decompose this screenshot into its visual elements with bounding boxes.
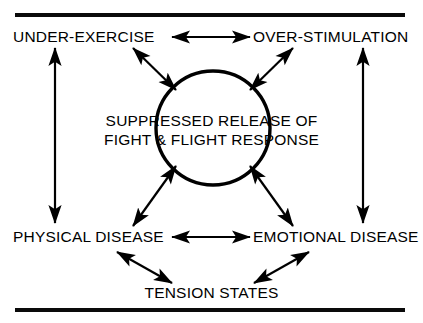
connector-physical-to-tension <box>117 252 172 283</box>
node-center-line-2: FIGHT & FLIGHT RESPONSE <box>0 131 423 148</box>
connector-upper-left-diagonal <box>133 48 176 90</box>
node-over-stimulation: OVER-STIMULATION <box>253 29 408 46</box>
node-tension-states: TENSION STATES <box>0 284 423 301</box>
node-under-exercise: UNDER-EXERCISE <box>13 29 154 46</box>
figure-diagram: UNDER-EXERCISE OVER-STIMULATION SUPPRESS… <box>0 0 423 323</box>
node-physical-disease: PHYSICAL DISEASE <box>13 229 164 246</box>
connector-emotional-to-tension <box>254 252 309 283</box>
connector-lower-left-diagonal <box>133 166 176 226</box>
connector-lower-right-diagonal <box>250 166 293 226</box>
diagram-connectors <box>0 0 423 323</box>
connector-upper-right-diagonal <box>250 48 293 90</box>
node-center-line-1: SUPPRESSED RELEASE OF <box>0 112 423 129</box>
node-emotional-disease: EMOTIONAL DISEASE <box>253 229 419 246</box>
